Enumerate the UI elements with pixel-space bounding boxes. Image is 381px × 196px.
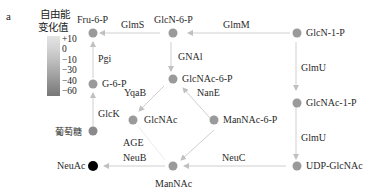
node-glucose-dot	[89, 127, 98, 136]
node-udpglcnac-dot	[293, 162, 302, 171]
enzyme-neuc: NeuC	[222, 152, 245, 163]
node-udpglcnac: UDP-GlcNAc	[306, 160, 363, 171]
node-glcnac1p-dot	[293, 99, 302, 108]
node-glcn6p: GlcN-6-P	[154, 14, 193, 25]
enzyme-glms: GlmS	[121, 19, 144, 30]
node-glcnac-dot	[129, 116, 138, 125]
enzyme-glck: GlcK	[98, 108, 120, 119]
node-fru6p-dot	[89, 29, 98, 38]
enzyme-nane: NanE	[197, 87, 220, 98]
enzyme-age: AGE	[123, 137, 144, 148]
enzyme-yqab: YqaB	[124, 87, 146, 98]
enzyme-glmm: GlmM	[223, 19, 250, 30]
node-glcn1p-dot	[293, 29, 302, 38]
node-glcnac: GlcNAc	[144, 114, 177, 125]
enzyme-pgi: Pgi	[98, 53, 111, 64]
node-glcn6p-dot	[169, 29, 178, 38]
node-fru6p: Fru-6-P	[77, 14, 108, 25]
node-glcnac1p: GlcNAc-1-P	[306, 97, 357, 108]
edge-mannac6p	[181, 130, 214, 160]
node-glcnac6p: GlcNAc-6-P	[182, 73, 233, 84]
node-glcnac6p-dot	[169, 75, 178, 84]
enzyme-glmu-2: GlmU	[301, 132, 326, 143]
node-mannac: ManNAc	[155, 178, 192, 189]
enzyme-glmu-1: GlmU	[301, 62, 326, 73]
enzyme-gnai: GNAl	[178, 51, 202, 62]
node-mannac-dot	[169, 162, 178, 171]
node-mannac6p: ManNAc-6-P	[223, 114, 277, 125]
node-mannac6p-dot	[210, 116, 219, 125]
node-glcn1p: GlcN-1-P	[306, 27, 345, 38]
node-g6p: G-6-P	[102, 78, 126, 89]
node-g6p-dot	[89, 80, 98, 89]
node-neuac-dot	[88, 161, 98, 171]
node-neuac: NeuAc	[57, 160, 85, 171]
enzyme-neub: NeuB	[123, 152, 146, 163]
node-glucose: 葡萄糖	[55, 125, 82, 138]
